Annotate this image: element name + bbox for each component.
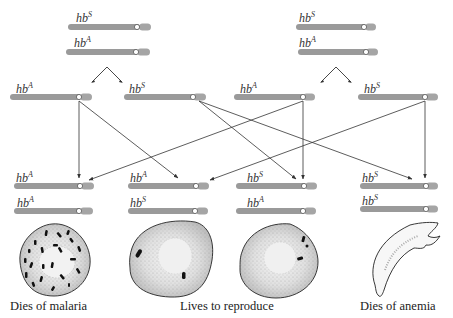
gamete-hbA-right: hbA [234,81,315,101]
allele-label: hbA [299,35,316,50]
centromere-icon [422,94,427,99]
gamete-hbS-left: hbS [124,81,206,101]
centromere-icon [77,183,82,188]
centromere-icon [301,183,306,188]
captions: Dies of malaria Lives to reproduce Dies … [10,299,436,313]
svg-text:hbS: hbS [129,81,145,96]
svg-text:hbA: hbA [247,195,264,210]
svg-text:hbS: hbS [362,193,378,208]
caption-reproduce: Lives to reproduce [180,299,274,313]
arrow-icon [89,101,303,180]
offspring-4-chromosomes: hbS hbS [360,170,438,213]
cells [20,221,440,298]
arrow-icon [79,101,178,178]
parent-right: hbS hbA [296,10,378,83]
gamete-hbA-left: hbA [10,81,92,101]
arrow-icon [210,101,425,180]
chromosome-hbA: hbA [66,35,150,56]
centromere-icon [361,24,366,29]
sickle-cell-icon [373,222,440,296]
centromere-icon [300,94,305,99]
allele-label: hbA [74,35,91,50]
caption-anemia: Dies of anemia [360,299,436,313]
svg-text:hbS: hbS [362,170,378,185]
centromere-icon [423,183,428,188]
offspring-row: hbA hbA hbA hbS hbS hbA [14,170,438,215]
svg-text:hbS: hbS [130,195,146,210]
centromere-icon [300,208,305,213]
offspring-1-chromosomes: hbA hbA [14,170,94,215]
centromere-icon [363,49,368,54]
cross-diagram: hbS hbA hbS hbA [0,0,453,318]
allele-label: hbS [76,10,92,25]
split-arrow-icon [321,67,351,82]
svg-text:hbA: hbA [16,170,33,185]
svg-text:hbA: hbA [16,81,33,96]
centromere-icon [133,49,138,54]
fertilization-arrows [79,101,425,180]
chromosome-hbA: hbA [298,35,378,56]
svg-text:hbA: hbA [240,81,257,96]
centromere-icon [193,183,198,188]
centromere-icon [190,94,195,99]
centromere-icon [76,208,81,213]
parent-left: hbS hbA [66,10,151,83]
gamete-hbS-right: hbS [358,81,438,101]
healthy-cell-icon [130,221,213,297]
healthy-cell-icon [240,224,318,298]
svg-text:hbS: hbS [247,170,263,185]
parasite-icon [182,272,186,279]
offspring-2-chromosomes: hbA hbS [128,170,209,215]
centromere-icon [192,208,197,213]
centromere-icon [76,94,81,99]
centromere-icon [134,24,139,29]
allele-label: hbS [299,10,315,25]
svg-text:hbS: hbS [364,81,380,96]
parasite-icon [306,245,309,248]
chromosome-hbS: hbS [296,10,376,31]
offspring-3-chromosomes: hbS hbA [236,170,317,215]
chromosome-hbS: hbS [68,10,151,31]
gametes-row: hbA hbS hbA hbS [10,81,438,101]
svg-text:hbA: hbA [130,170,147,185]
centromere-icon [423,206,428,211]
malaria-infected-cell-icon [20,224,90,296]
arrow-icon [199,101,412,179]
split-arrow-icon [92,67,122,82]
arrow-icon [199,101,296,179]
caption-malaria: Dies of malaria [10,299,88,313]
svg-text:hbA: hbA [17,195,34,210]
